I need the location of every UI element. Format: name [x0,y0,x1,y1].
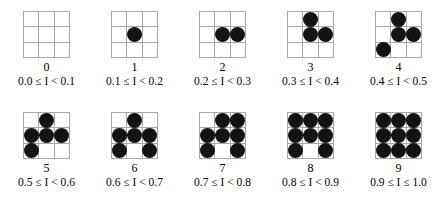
glyph-digit-label: 7 [220,162,226,175]
dot-cell-filled [319,128,334,143]
dot-cell-filled [288,128,303,143]
dot-cell-empty [55,43,70,58]
dot-cell-empty [200,113,215,128]
dot-cell-filled [231,144,246,159]
dot-cell-empty [319,12,334,27]
dot-cell-filled [231,113,246,128]
dot-cell-empty [39,144,54,159]
dot-cell-filled [376,43,391,58]
dot-cell-filled [303,27,318,42]
dot-cell-filled [127,27,142,42]
dot-cell-filled [391,113,406,128]
dot-cell-empty [288,12,303,27]
dot-cell-empty [143,43,158,58]
dot-cell-filled [231,128,246,143]
dot-cell-filled [112,144,127,159]
dot-cell-filled [24,128,39,143]
glyph-range-label: 0.6 ≤ I < 0.7 [106,176,163,189]
dot-cell-filled [376,128,391,143]
glyph-block: 3 0.3 ≤ I < 0.4 [268,0,353,88]
dot-cell-filled [407,128,422,143]
dot-cell-empty [127,144,142,159]
glyph-digit-label: 3 [308,61,314,74]
dot-grid [375,112,422,159]
glyph-digit-label: 2 [220,61,226,74]
glyph-block: 6 0.6 ≤ I < 0.7 [92,101,177,189]
glyph-range-label: 0.1 ≤ I < 0.2 [106,75,163,88]
dot-cell-empty [55,144,70,159]
dot-cell-empty [200,12,215,27]
figure-canvas: 0 0.0 ≤ I < 0.1 1 0.1 ≤ I < 0.2 2 0.2 ≤ … [0,0,445,202]
glyph-digit-label: 6 [132,162,138,175]
dot-grid [23,112,70,159]
glyph-block: 5 0.5 ≤ I < 0.6 [4,101,89,189]
dot-cell-empty [112,12,127,27]
dot-cell-empty [127,43,142,58]
dot-cell-filled [319,27,334,42]
dot-grid [287,112,334,159]
glyph-digit-label: 1 [132,61,138,74]
glyph-block: 9 0.9 ≤ I ≤ 1.0 [356,101,441,189]
dot-cell-filled [376,144,391,159]
dot-cell-filled [200,128,215,143]
glyph-row-bottom: 5 0.5 ≤ I < 0.6 6 0.6 ≤ I < 0.7 7 0.7 ≤ … [0,101,445,202]
dot-cell-empty [112,43,127,58]
dot-cell-empty [391,43,406,58]
dot-cell-empty [376,12,391,27]
glyph-digit-label: 0 [44,61,50,74]
dot-cell-filled [391,144,406,159]
dot-grid [287,11,334,58]
dot-cell-filled [143,144,158,159]
dot-cell-empty [112,27,127,42]
dot-cell-empty [200,27,215,42]
dot-cell-empty [24,27,39,42]
dot-cell-empty [303,144,318,159]
glyph-range-label: 0.8 ≤ I < 0.9 [282,176,339,189]
dot-cell-filled [391,12,406,27]
dot-cell-filled [319,113,334,128]
dot-cell-filled [143,128,158,143]
dot-cell-filled [303,12,318,27]
dot-cell-empty [143,113,158,128]
glyph-range-label: 0.3 ≤ I < 0.4 [282,75,339,88]
dot-cell-filled [215,27,230,42]
glyph-range-label: 0.5 ≤ I < 0.6 [18,176,75,189]
glyph-digit-label: 5 [44,162,50,175]
dot-cell-filled [288,144,303,159]
dot-cell-empty [288,27,303,42]
dot-cell-filled [407,113,422,128]
dot-cell-empty [39,43,54,58]
glyph-digit-label: 8 [308,162,314,175]
dot-grid [199,11,246,58]
dot-cell-filled [112,128,127,143]
dot-cell-filled [127,113,142,128]
dot-cell-filled [39,128,54,143]
dot-cell-empty [55,113,70,128]
dot-cell-empty [231,12,246,27]
glyph-block: 0 0.0 ≤ I < 0.1 [4,0,89,88]
dot-cell-filled [39,113,54,128]
dot-cell-filled [288,113,303,128]
glyph-range-label: 0.2 ≤ I < 0.3 [194,75,251,88]
glyph-block: 1 0.1 ≤ I < 0.2 [92,0,177,88]
dot-cell-filled [407,27,422,42]
dot-cell-empty [231,43,246,58]
glyph-block: 4 0.4 ≤ I < 0.5 [356,0,441,88]
dot-cell-filled [407,144,422,159]
glyph-row-top: 0 0.0 ≤ I < 0.1 1 0.1 ≤ I < 0.2 2 0.2 ≤ … [0,0,445,101]
dot-cell-filled [215,128,230,143]
dot-cell-empty [215,43,230,58]
dot-cell-filled [55,128,70,143]
dot-cell-empty [200,43,215,58]
dot-cell-empty [376,27,391,42]
dot-cell-empty [215,144,230,159]
dot-cell-empty [24,113,39,128]
dot-cell-filled [127,128,142,143]
dot-cell-filled [391,128,406,143]
dot-cell-empty [303,43,318,58]
dot-cell-empty [55,12,70,27]
dot-cell-filled [303,128,318,143]
dot-cell-empty [288,43,303,58]
dot-cell-filled [319,144,334,159]
dot-cell-empty [39,12,54,27]
